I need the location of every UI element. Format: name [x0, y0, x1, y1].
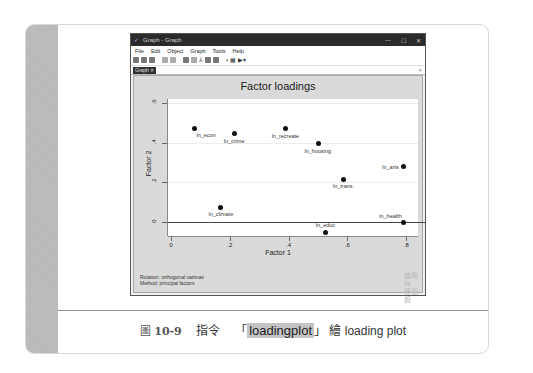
menu-object[interactable]: Object [167, 48, 183, 54]
caption-text-after: 繪 loading plot [329, 324, 406, 338]
tab-bar: Graph ✕ ▾ [131, 66, 425, 75]
figure-caption: 圖 10-9 指令 「loadingplot」 繪 loading plot [58, 320, 488, 342]
point-label: ln_econ [196, 132, 215, 138]
watermark-line-1: 啟用 W [404, 272, 422, 288]
point-label: ln_trans [333, 183, 353, 189]
gridline [168, 103, 418, 104]
y-tick-label: .6 [151, 96, 157, 108]
quote-close: 」 [314, 324, 326, 338]
copy-icon[interactable] [162, 57, 168, 63]
point-label: ln_educ [316, 222, 335, 228]
y-tick-label: 0 [151, 215, 157, 227]
gridline [168, 182, 418, 183]
figure-number: 10-9 [154, 325, 182, 338]
menu-bar: File Edit Object Graph Tools Help [131, 46, 425, 55]
activation-watermark: 啟用 W 移至 設 [404, 272, 422, 304]
print-icon[interactable] [149, 57, 155, 63]
x-axis [168, 236, 418, 237]
side-band [26, 25, 58, 353]
graph-editor-icon[interactable] [183, 57, 189, 63]
point-label: ln_climate [208, 211, 233, 217]
save-icon[interactable] [141, 57, 147, 63]
grid-icon[interactable]: ▦ [230, 57, 236, 63]
y-tick [162, 222, 167, 223]
x-tick-label: .8 [400, 242, 412, 248]
window-controls: — ☐ ✕ [385, 34, 421, 46]
stata-graph-window: ✓ Graph - Graph — ☐ ✕ File Edit Object G… [130, 33, 426, 296]
caption-text-before: 指令 [196, 324, 220, 338]
data-point [316, 141, 321, 146]
title-bar[interactable]: ✓ Graph - Graph — ☐ ✕ [131, 34, 425, 46]
data-point [192, 126, 197, 131]
point-label: ln_recreate [272, 133, 300, 139]
pointer-icon[interactable] [205, 57, 211, 63]
x-tick [230, 237, 231, 241]
gridline [168, 143, 418, 144]
tab-menu-icon[interactable]: ▾ [419, 66, 422, 74]
graph-note: Rotation: orthogonal varimax Method: pri… [140, 274, 204, 286]
x-tick [171, 237, 172, 241]
x-tick-label: .2 [224, 242, 236, 248]
menu-edit[interactable]: Edit [151, 48, 160, 54]
x-tick [289, 237, 290, 241]
data-point [401, 220, 406, 225]
y-tick-label: .2 [151, 175, 157, 187]
y-tick [162, 103, 167, 104]
window-title: Graph - Graph [143, 37, 182, 43]
point-label: ln_housing [305, 148, 332, 154]
x-tick-label: .6 [341, 242, 353, 248]
close-button[interactable]: ✕ [416, 37, 421, 44]
menu-help[interactable]: Help [232, 48, 243, 54]
minimize-button[interactable]: — [385, 37, 391, 43]
note-method: Method: principal factors [140, 280, 204, 286]
x-tick [406, 237, 407, 241]
point-label: ln_arts [382, 164, 399, 170]
stata-app-icon: ✓ [134, 37, 140, 43]
point-label: ln_crime [224, 138, 245, 144]
recorder-icon[interactable]: ⅄ [199, 57, 203, 63]
point-label: ln_health [379, 213, 401, 219]
menu-graph[interactable]: Graph [190, 48, 205, 54]
data-point [218, 205, 223, 210]
zero-reference-line [168, 222, 426, 223]
graph-canvas[interactable]: Factor loadings Factor 2 ln_econln_crime… [133, 75, 423, 293]
data-point [283, 126, 288, 131]
rename-icon[interactable] [191, 57, 197, 63]
plot-region: ln_econln_crimeln_recreateln_housingln_a… [168, 99, 418, 236]
x-tick-label: .4 [283, 242, 295, 248]
toolbar: ⅄ • ▦ ▶▾ [131, 55, 425, 66]
data-point [341, 177, 346, 182]
x-tick [347, 237, 348, 241]
maximize-button[interactable]: ☐ [401, 37, 406, 44]
quote-open: 「 [235, 324, 247, 338]
command-name: loadingplot [247, 323, 314, 338]
menu-tools[interactable]: Tools [213, 48, 226, 54]
y-tick [162, 182, 167, 183]
watermark-line-2: 移至 設 [404, 288, 422, 304]
marker-icon[interactable]: • [226, 57, 228, 63]
open-icon[interactable] [133, 57, 139, 63]
graph-title: Factor loadings [134, 80, 422, 92]
paste-icon[interactable] [170, 57, 176, 63]
x-tick-label: 0 [165, 242, 177, 248]
data-point [401, 164, 406, 169]
menu-file[interactable]: File [135, 48, 144, 54]
data-point [323, 230, 328, 235]
text-icon[interactable] [213, 57, 219, 63]
y-tick [162, 143, 167, 144]
caption-divider [58, 310, 488, 311]
y-tick-label: .4 [151, 136, 157, 148]
tab-graph[interactable]: Graph ✕ [133, 67, 156, 74]
x-axis-title: Factor 1 [134, 249, 422, 256]
figure-prefix: 圖 [140, 325, 151, 338]
data-point [232, 131, 237, 136]
play-icon[interactable]: ▶▾ [238, 57, 246, 63]
